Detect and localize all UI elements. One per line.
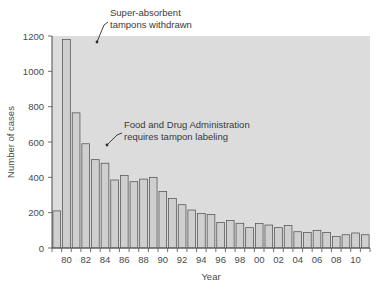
bar (332, 237, 340, 248)
y-axis-tick-label: 200 (28, 207, 44, 218)
bar-chart-figure: 020040060080010001200 808284868890929496… (0, 0, 386, 291)
y-axis-tick-label: 600 (28, 137, 44, 148)
x-axis-tick-label: 96 (215, 254, 226, 265)
bar (169, 199, 177, 248)
annotation-anchor-dot (96, 41, 99, 44)
y-axis-tick-label: 1000 (23, 66, 44, 77)
bar (72, 113, 80, 248)
bar (159, 191, 167, 248)
bar (149, 177, 157, 248)
x-axis-tick-label: 04 (292, 254, 303, 265)
y-axis-tick-label: 400 (28, 172, 44, 183)
bar (313, 230, 321, 248)
x-axis-tick-label: 98 (235, 254, 246, 265)
x-axis-tick-label: 88 (138, 254, 149, 265)
x-axis-title: Year (201, 271, 220, 282)
bar (352, 233, 360, 248)
x-axis-tick-label: 02 (273, 254, 284, 265)
bar (198, 214, 206, 248)
x-axis-tick-label: 08 (331, 254, 342, 265)
bar (130, 182, 138, 248)
bar (284, 225, 292, 248)
bar (101, 163, 109, 248)
annotation-line-2: requires tampon labeling (124, 131, 228, 142)
bar (246, 228, 254, 248)
x-axis-tick-label: 82 (80, 254, 91, 265)
x-axis-tick-label: 90 (158, 254, 169, 265)
x-axis-tick-label: 00 (254, 254, 265, 265)
bar (255, 224, 263, 248)
y-axis-tick-label: 800 (28, 101, 44, 112)
bar (236, 223, 244, 248)
bar (275, 228, 283, 248)
bar (111, 180, 119, 248)
bar (53, 211, 61, 248)
bar (207, 214, 215, 248)
bar (92, 160, 100, 248)
bar (178, 205, 186, 248)
annotation-line-1: Super-absorbent (110, 7, 181, 18)
y-axis-title: Number of cases (5, 106, 16, 178)
x-axis-tick-label: 92 (177, 254, 188, 265)
bar (294, 232, 302, 248)
bar (323, 232, 331, 248)
bar (226, 221, 234, 248)
bar (342, 235, 350, 248)
x-axis-tick-label: 06 (312, 254, 323, 265)
y-axis-tick-label: 1200 (23, 31, 44, 42)
x-axis-tick-label: 84 (100, 254, 111, 265)
bar (120, 176, 128, 248)
bar (188, 210, 196, 248)
x-axis-tick-label: 80 (61, 254, 72, 265)
x-axis-tick-label: 86 (119, 254, 130, 265)
x-axis-tick-label: 94 (196, 254, 207, 265)
bar (265, 225, 273, 248)
bar (63, 40, 71, 248)
annotation-line-1: Food and Drug Administration (124, 119, 250, 130)
bar (304, 233, 312, 248)
x-axis-tick-label: 10 (350, 254, 361, 265)
bar (82, 144, 90, 248)
y-axis-tick-label: 0 (39, 243, 44, 254)
annotation-anchor-dot (106, 144, 109, 147)
annotation-line-2: tampons withdrawn (110, 19, 192, 30)
bar (361, 235, 369, 248)
bar (140, 179, 148, 248)
bar (217, 222, 225, 248)
